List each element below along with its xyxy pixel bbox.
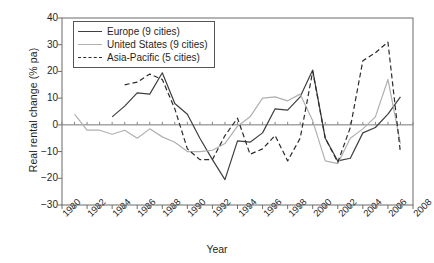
legend-label: Asia-Pacific (5 cities) xyxy=(107,52,200,63)
legend-swatch-icon xyxy=(78,52,102,63)
chart-figure: Real rental change (% pa) Year 403020100… xyxy=(0,0,434,263)
legend-label: United States (9 cities) xyxy=(107,39,208,50)
chart-legend: Europe (9 cities)United States (9 cities… xyxy=(73,21,215,68)
legend-label: Europe (9 cities) xyxy=(107,26,180,37)
legend-swatch-icon xyxy=(78,26,102,37)
legend-item-3: Asia-Pacific (5 cities) xyxy=(78,51,208,64)
plot-area xyxy=(0,0,434,263)
legend-item-1: Europe (9 cities) xyxy=(78,25,208,38)
legend-item-2: United States (9 cities) xyxy=(78,38,208,51)
legend-swatch-icon xyxy=(78,39,102,50)
